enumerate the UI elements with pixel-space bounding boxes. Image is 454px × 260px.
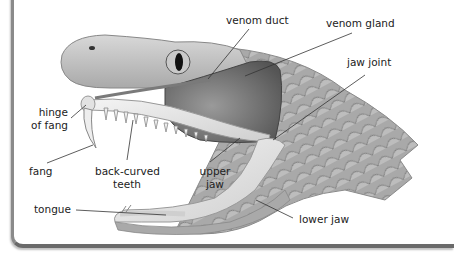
label-hinge-of-fang: hinge of fang: [30, 106, 68, 132]
label-venom-duct: venom duct: [226, 14, 289, 27]
label-upper-jaw: upper jaw: [196, 165, 234, 191]
label-venom-gland: venom gland: [326, 17, 395, 30]
label-jaw-joint: jaw joint: [347, 56, 391, 69]
label-hinge-of-fang-line1: hinge: [30, 106, 68, 119]
label-lower-jaw: lower jaw: [299, 213, 349, 226]
nostril: [89, 46, 95, 50]
fang: [84, 108, 96, 148]
leader-fang: [47, 145, 93, 163]
label-back-curved-teeth: back-curved teeth: [95, 165, 159, 191]
label-tongue: tongue: [34, 203, 71, 216]
eye-icon: [166, 50, 190, 74]
label-back-curved-teeth-line1: back-curved: [95, 165, 159, 178]
label-fang: fang: [29, 165, 52, 178]
label-back-curved-teeth-line2: teeth: [95, 178, 159, 191]
leader-back-curved-teeth: [127, 120, 133, 160]
label-upper-jaw-line2: jaw: [196, 178, 234, 191]
label-hinge-of-fang-line2: of fang: [30, 119, 68, 132]
label-upper-jaw-line1: upper: [196, 165, 234, 178]
